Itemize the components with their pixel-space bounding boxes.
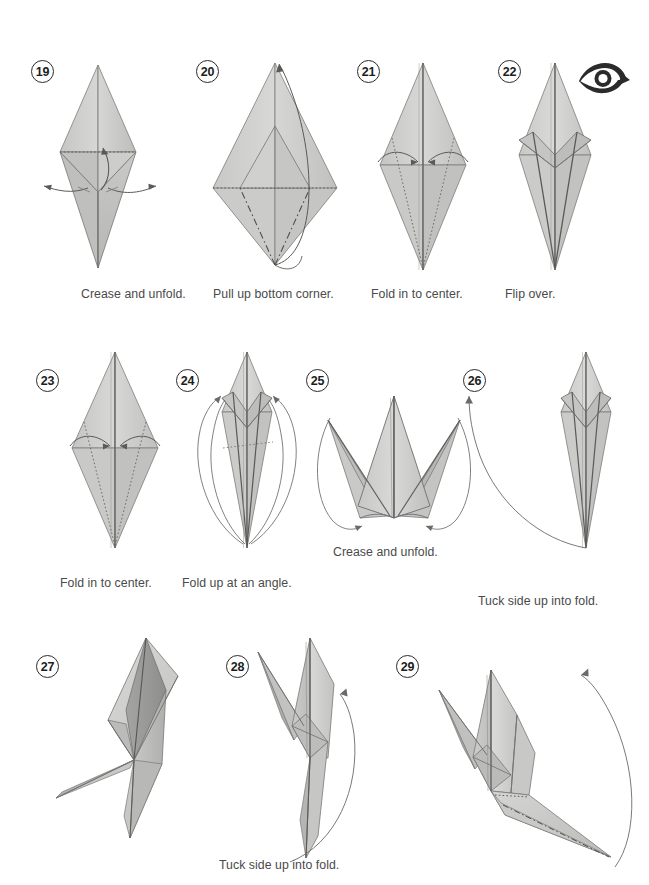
step-number-28: 28 — [226, 655, 249, 678]
instruction-sheet: 19 — [0, 0, 649, 885]
caption-step-24: Fold up at an angle. — [182, 576, 292, 590]
step-number-label: 25 — [311, 374, 325, 388]
figure-step-26 — [460, 352, 635, 552]
figure-step-20 — [200, 60, 350, 275]
flip-over-icon — [573, 60, 631, 96]
caption-step-26: Tuck side up into fold. — [478, 594, 598, 608]
figure-step-29 — [425, 645, 645, 875]
caption-step-20: Pull up bottom corner. — [213, 287, 334, 301]
caption-step-25: Crease and unfold. — [333, 545, 438, 559]
figure-step-19 — [40, 60, 170, 275]
step-number-label: 28 — [231, 660, 245, 674]
figure-step-21 — [368, 60, 478, 275]
step-number-label: 23 — [41, 374, 55, 388]
step-number-29: 29 — [396, 655, 419, 678]
step-number-25: 25 — [306, 369, 329, 392]
figure-step-27 — [38, 628, 228, 878]
step-number-label: 29 — [401, 660, 415, 674]
caption-step-22: Flip over. — [505, 287, 555, 301]
figure-step-23 — [60, 352, 170, 552]
caption-step-23: Fold in to center. — [60, 576, 152, 590]
step-number-23: 23 — [36, 369, 59, 392]
figure-step-28 — [248, 630, 388, 870]
figure-step-24 — [185, 352, 310, 552]
figure-step-25 — [310, 390, 480, 540]
caption-step-21: Fold in to center. — [371, 287, 463, 301]
caption-step-28: Tuck side up into fold. — [219, 858, 339, 872]
caption-step-19: Crease and unfold. — [81, 287, 186, 301]
